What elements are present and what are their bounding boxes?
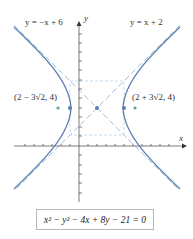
vertex-left <box>68 106 72 110</box>
hyperbola-graph <box>0 0 193 239</box>
asymptote-right-label: y = x + 2 <box>130 17 163 27</box>
y-axis <box>79 26 82 202</box>
hyperbola-left-branch <box>14 27 71 189</box>
hyperbola-right-branch <box>123 27 180 189</box>
equation-box: x² − y² − 4x + 8y − 21 = 0 <box>36 209 154 230</box>
x-axis <box>14 144 182 146</box>
vertex-right <box>122 106 126 110</box>
y-axis-label: y <box>84 13 88 23</box>
equation-text: x² − y² − 4x + 8y − 21 = 0 <box>44 215 146 225</box>
asymptote-left-label: y = −x + 6 <box>25 17 63 27</box>
focus-right-label: (2 + 3√2, 4) <box>132 92 175 102</box>
center-point <box>95 106 99 110</box>
y-axis-arrow-icon <box>77 21 82 26</box>
focus-left-label: (2 − 3√2, 4) <box>14 92 57 102</box>
focus-right <box>133 106 136 109</box>
focus-left <box>56 106 59 109</box>
x-axis-label: x <box>179 133 183 143</box>
x-axis-arrow-icon <box>182 144 187 149</box>
